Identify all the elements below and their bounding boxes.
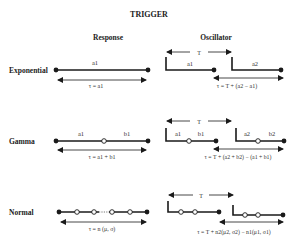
pulse1-label-b: b1	[198, 130, 205, 137]
end-dot-icon	[146, 68, 151, 73]
pulse1-label: a1	[187, 60, 193, 67]
row-gamma: Gamma a1 b1 τ = a1 + b1 T a1 b1 a2	[9, 119, 286, 162]
row-label-gamma: Gamma	[9, 137, 35, 146]
oscillator-formula: τ = T + n2(μ2, σ2) − n1(μ1, σ1)	[197, 229, 271, 236]
gamma-oscillator: T a1 b1 a2 b2 τ = T + (a2 + b2) − (a1 + …	[166, 119, 286, 162]
pulse1-end-dot-icon	[217, 210, 222, 215]
normal-response: τ = n (μ, σ)	[57, 210, 150, 233]
start-dot-icon	[57, 210, 62, 215]
open-circle-icon	[243, 213, 248, 218]
end-dot-icon	[146, 139, 151, 144]
open-circle-icon	[102, 139, 107, 144]
oscillator-formula: τ = T + (a2 − a1)	[217, 83, 257, 90]
oscillator-formula: τ = T + (a2 + b2) − (a1 + b1)	[205, 154, 272, 161]
segment-label-a: a1	[78, 130, 84, 137]
open-circle-icon	[92, 210, 97, 215]
end-dot-icon	[145, 210, 150, 215]
normal-oscillator: T τ = T + n2(μ2, σ2) − n1(μ1, σ1)	[168, 193, 285, 237]
pulse1-end-dot-icon	[212, 68, 217, 73]
period-label: T	[197, 119, 201, 125]
period-label: T	[197, 50, 201, 56]
open-circle-icon	[75, 210, 80, 215]
pulse1-end-dot-icon	[214, 139, 219, 144]
open-circle-icon	[256, 213, 261, 218]
open-circle-icon	[179, 210, 184, 215]
pulse2-end-dot-icon	[279, 68, 284, 73]
pulse2-end-dot-icon	[281, 213, 286, 218]
response-formula: τ = a1 + b1	[89, 154, 116, 160]
response-formula: τ = n (μ, σ)	[89, 226, 116, 233]
segment-label: a1	[92, 59, 98, 66]
exponential-response: a1 τ = a1	[54, 59, 151, 89]
open-circle-icon	[193, 210, 198, 215]
segment-label-b: b1	[124, 130, 131, 137]
open-circle-icon	[187, 139, 192, 144]
open-circle-icon	[256, 139, 261, 144]
response-column-header: Response	[93, 33, 124, 42]
gamma-response: a1 b1 τ = a1 + b1	[54, 130, 151, 160]
pulse2-label-a: a2	[244, 130, 250, 137]
pulse2-end-dot-icon	[282, 139, 287, 144]
pulse2-label: a2	[252, 60, 258, 67]
open-circle-icon	[110, 210, 115, 215]
pulse2-label-b: b2	[269, 130, 276, 137]
row-label-normal: Normal	[9, 208, 34, 217]
pulse1-label-a: a1	[175, 130, 181, 137]
response-formula: τ = a1	[89, 83, 103, 89]
diagram-title: TRIGGER	[130, 10, 168, 19]
start-dot-icon	[54, 68, 59, 73]
oscillator-column-header: Oscillator	[200, 33, 232, 42]
row-normal: Normal τ = n (μ, σ) T	[9, 193, 285, 237]
exponential-oscillator: T a1 a2 τ = T + (a2 − a1)	[166, 50, 283, 91]
trigger-diagram: TRIGGER Response Oscillator Exponential …	[0, 0, 298, 251]
start-dot-icon	[54, 139, 59, 144]
period-label: T	[199, 193, 203, 199]
row-label-exponential: Exponential	[9, 66, 48, 75]
row-exponential: Exponential a1 τ = a1 T a1 a2 τ = T + (a…	[9, 50, 283, 91]
open-circle-icon	[128, 210, 133, 215]
